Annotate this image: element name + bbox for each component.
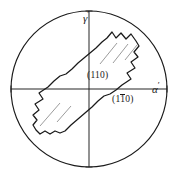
miller-digits-110: 110 [90, 70, 105, 80]
paren-close: ) [105, 70, 108, 80]
plane-index-label-1bar10: (110) [112, 95, 134, 105]
leader-line-5 [57, 106, 71, 122]
leader-line-2 [113, 44, 128, 63]
stereographic-projection-figure: α′ γ′ (110) (110) [0, 0, 181, 183]
leader-line-4 [40, 103, 60, 126]
axis-label-gamma-prime: γ′ [83, 10, 89, 24]
lath-shaped-grain-outline [33, 32, 139, 134]
axis-label-alpha-prime: α′ [152, 81, 160, 95]
plane-index-label-110: (110) [87, 71, 108, 81]
miller-digit-1-overbar: 1 [120, 95, 125, 105]
gamma-prime-mark: ′ [87, 9, 89, 19]
paren-close: ) [130, 94, 133, 104]
alpha-prime-mark: ′ [158, 80, 160, 90]
